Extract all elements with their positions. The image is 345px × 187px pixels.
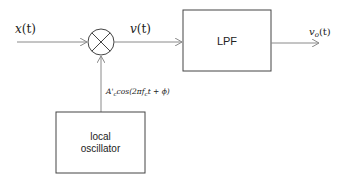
mixer-multiplier-icon <box>88 29 114 55</box>
mixer-output-label: v(t) <box>130 22 151 36</box>
output-signal-label: vo(t) <box>309 26 331 39</box>
lpf-block: LPF <box>183 10 271 71</box>
local-oscillator-block: local oscillator <box>56 112 145 173</box>
lo-signal-label: A'ccos(2πfct + ϕ) <box>105 87 170 97</box>
lpf-label: LPF <box>217 35 237 47</box>
local-oscillator-label-line2: oscillator <box>81 143 121 154</box>
local-oscillator-label-line1: local <box>90 131 111 142</box>
input-signal-label: x(t) <box>15 22 36 36</box>
block-diagram: x(t) v(t) LPF vo(t) A'ccos(2πfct + ϕ) lo… <box>0 0 345 187</box>
